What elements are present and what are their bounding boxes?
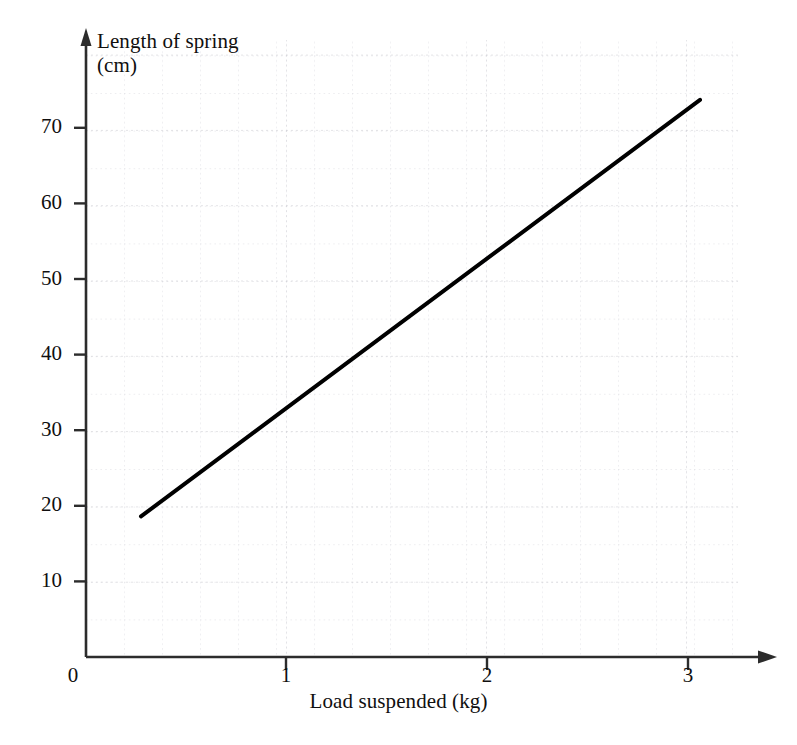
origin-label: 0 [53,663,93,688]
y-tick-label-70: 70 [18,114,62,139]
y-tick-label-60: 60 [18,190,62,215]
y-axis-title: Length of spring (cm) [97,30,239,77]
spring-extension-line-chart: Length of spring (cm) Load suspended (kg… [0,0,797,745]
y-axis-ticks [74,128,86,582]
grid-major [86,40,738,657]
x-tick-label-3: 3 [668,663,708,688]
y-tick-label-50: 50 [18,266,62,291]
x-tick-label-2: 2 [467,663,507,688]
arrow-up-icon [81,28,92,46]
y-tick-label-40: 40 [18,341,62,366]
y-tick-label-20: 20 [18,492,62,517]
y-tick-label-30: 30 [18,417,62,442]
y-tick-label-10: 10 [18,568,62,593]
x-tick-label-1: 1 [266,663,306,688]
chart-canvas [0,0,797,745]
x-axis-title: Load suspended (kg) [0,690,797,714]
arrow-right-icon [758,651,777,664]
